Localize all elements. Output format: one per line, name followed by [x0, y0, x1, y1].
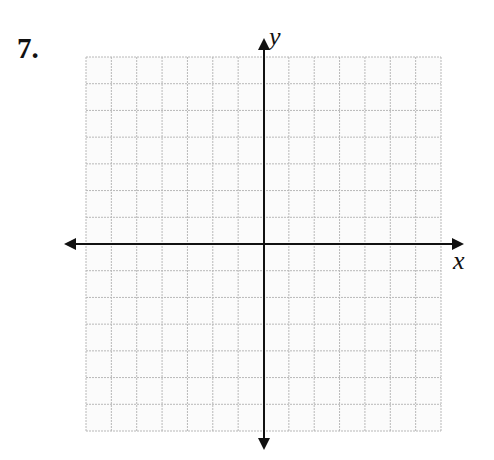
x-axis-label: x — [453, 246, 465, 276]
y-axis-down-arrow-icon — [258, 438, 270, 450]
y-axis-label: y — [269, 22, 281, 52]
x-axis-left-arrow-icon — [64, 238, 76, 250]
coordinate-plane — [0, 0, 494, 460]
